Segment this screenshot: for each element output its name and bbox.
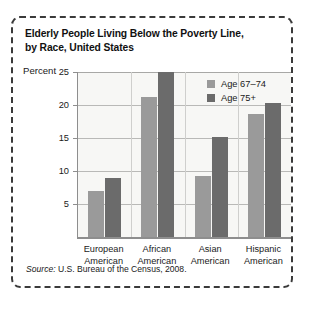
bar-european-american-age-75 bbox=[105, 178, 121, 237]
chart-title-line-1: Elderly People Living Below the Poverty … bbox=[25, 28, 244, 39]
bar-african-american-age-75 bbox=[158, 72, 174, 237]
bar-hispanic-american-age-75 bbox=[265, 103, 281, 237]
legend-swatch-icon-age-67-74 bbox=[207, 80, 215, 88]
bar-asian-american-age-75 bbox=[212, 137, 228, 237]
chart-legend: Age 67–74 Age 75+ bbox=[207, 78, 266, 106]
category-separator bbox=[131, 72, 132, 237]
x-axis-label-line: American bbox=[237, 256, 290, 268]
x-axis-line bbox=[77, 237, 291, 239]
y-axis-tick-label-5: 5 bbox=[13, 199, 69, 209]
bar-asian-american-age-67-74 bbox=[195, 176, 211, 237]
x-axis-label-line: Hispanic bbox=[237, 244, 290, 256]
legend-item-age-75-plus: Age 75+ bbox=[207, 92, 266, 104]
legend-label-age-75-plus: Age 75+ bbox=[221, 93, 256, 103]
y-axis-tickmark-15 bbox=[73, 138, 77, 139]
y-axis-tick-label-10: 10 bbox=[13, 166, 69, 176]
x-axis-category-african-american: AfricanAmerican bbox=[130, 244, 183, 267]
legend-item-age-67-74: Age 67–74 bbox=[207, 78, 266, 90]
y-axis-tick-label-20: 20 bbox=[13, 100, 69, 110]
source-prefix: Source: bbox=[26, 264, 56, 274]
y-axis-tickmark-20 bbox=[73, 105, 77, 106]
x-axis-label-line: Asian bbox=[184, 244, 237, 256]
y-axis-tickmark-10 bbox=[73, 171, 77, 172]
x-axis-label-line: American bbox=[130, 256, 183, 268]
legend-label-age-67-74: Age 67–74 bbox=[221, 79, 266, 89]
chart-title: Elderly People Living Below the Poverty … bbox=[25, 27, 275, 54]
x-axis-category-asian-american: AsianAmerican bbox=[184, 244, 237, 267]
legend-swatch-icon-age-75-plus bbox=[207, 94, 215, 102]
y-axis-tick-label-15: 15 bbox=[13, 133, 69, 143]
x-axis-category-european-american: EuropeanAmerican bbox=[77, 244, 130, 267]
y-axis-tickmark-5 bbox=[73, 204, 77, 205]
chart-title-line-2: by Race, United States bbox=[25, 42, 134, 53]
x-axis-label-line: African bbox=[130, 244, 183, 256]
bar-european-american-age-67-74 bbox=[88, 191, 104, 237]
x-axis-category-hispanic-american: HispanicAmerican bbox=[237, 244, 290, 267]
y-axis-tickmark-25 bbox=[73, 72, 77, 73]
chart-figure-panel: Elderly People Living Below the Poverty … bbox=[11, 16, 293, 288]
bar-hispanic-american-age-67-74 bbox=[248, 114, 264, 237]
y-axis-tick-label-25: 25 bbox=[13, 67, 69, 77]
x-axis-label-line: European bbox=[77, 244, 130, 256]
x-axis-label-line: American bbox=[77, 256, 130, 268]
category-separator bbox=[185, 72, 186, 237]
x-axis-label-line: American bbox=[184, 256, 237, 268]
bar-african-american-age-67-74 bbox=[141, 97, 157, 237]
